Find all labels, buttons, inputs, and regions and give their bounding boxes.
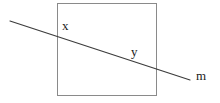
angle-label-y: y — [131, 45, 138, 58]
angle-label-x: x — [62, 19, 69, 32]
figure-canvas — [0, 0, 220, 103]
geometry-figure: x y m — [0, 0, 220, 103]
line-label-m: m — [196, 69, 206, 82]
square-shape — [58, 4, 157, 96]
